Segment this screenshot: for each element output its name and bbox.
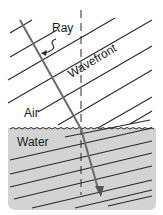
ray-pointer-arrowhead (41, 50, 47, 56)
air-label: Air (24, 107, 39, 119)
water-label: Water (17, 136, 49, 148)
ray-label: Ray (52, 22, 73, 34)
ray-pointer-arrow (43, 39, 56, 53)
